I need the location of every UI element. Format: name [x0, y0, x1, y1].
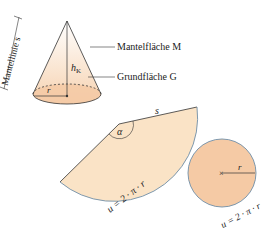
- base-circle: × r u = 2 · π · r: [188, 139, 262, 230]
- cone-center-dot: [66, 95, 68, 97]
- slant-height-dimension: Mantellinie s: [0, 16, 22, 90]
- base-area-label: Grundfläche G: [117, 71, 177, 82]
- cone-net-diagram: hK r Mantellinie s Mantelfläche M Grundf…: [0, 0, 279, 231]
- slant-height-label: Mantellinie s: [0, 36, 22, 87]
- sector: α s u = 2 · π · r: [60, 105, 198, 215]
- circle-radius-label: r: [238, 162, 242, 172]
- cone-radius-label: r: [47, 85, 51, 95]
- angle-label: α: [117, 126, 123, 137]
- lateral-surface-label: Mantelfläche M: [117, 41, 181, 52]
- cone: hK r: [33, 21, 101, 104]
- sector-s-label: s: [155, 105, 159, 116]
- circle-center-mark: ×: [219, 169, 224, 178]
